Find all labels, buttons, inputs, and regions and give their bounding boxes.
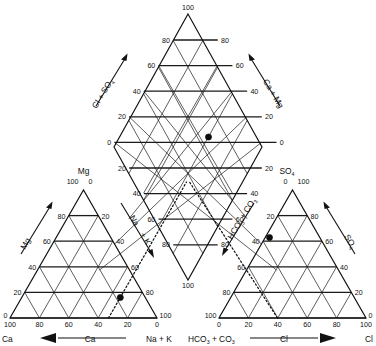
cation-apex-tick-100: 100 [67, 178, 79, 186]
diamond-diag-left-3 [173, 41, 247, 174]
diamond-camg-axis-arrow-head [249, 54, 256, 62]
cation-left-tick-80: 80 [58, 213, 66, 221]
diamond-axis-titles: Cl + SO4 Ca + Mg [90, 54, 286, 111]
anion-gridline-l2 [278, 241, 322, 318]
cation-triangle [10, 182, 187, 318]
diamond-data-point[interactable] [205, 134, 211, 140]
diamond-ur-tick-20: 20 [265, 113, 273, 121]
diamond-ur-tick-80: 80 [221, 37, 229, 45]
diamond-apex-bottom-tick-100: 100 [182, 282, 194, 290]
anion-left-tick-20: 20 [267, 213, 275, 221]
diamond-ur-tick-60: 60 [236, 62, 244, 70]
diamond-diag-right-3 [129, 41, 203, 174]
diamond-ul-tick-0: 0 [107, 139, 111, 147]
cation-bottom-tick-80: 80 [35, 321, 43, 329]
diamond-ur-tick-40: 40 [250, 88, 258, 96]
cation-left-tick-60: 60 [43, 238, 51, 246]
anion-triangle [190, 182, 367, 318]
piper-diagram-svg: 100 0 Mg 80 60 40 20 0 20 40 60 80 100 1… [0, 0, 376, 346]
anion-so4-axis-arrow-head [324, 202, 331, 210]
anion-right-tick-0: 0 [369, 312, 373, 320]
diamond-ll-tick-60: 60 [147, 216, 155, 224]
diamond-apex-top-tick-100: 100 [182, 4, 194, 12]
cation-corner-label-ca: Ca [2, 334, 13, 344]
cation-bottom-tick-60: 60 [65, 321, 73, 329]
anion-left-tick-100: 100 [205, 312, 217, 320]
cation-bottom-tick-20: 20 [124, 321, 132, 329]
cation-gridline-l4 [128, 292, 143, 318]
diamond-gl-a2 [144, 91, 247, 219]
anion-right-tick-20: 20 [355, 289, 363, 297]
diamond-clso4-axis-arrow-head [121, 54, 128, 62]
anion-bottom-axis-title-cl: Cl [280, 334, 288, 344]
anion-gridline-r4 [234, 292, 249, 318]
cation-bottom-tick-0: 0 [155, 321, 159, 329]
piper-diagram-container: 100 0 Mg 80 60 40 20 0 20 40 60 80 100 1… [0, 0, 376, 346]
diamond-ul-tick-60: 60 [147, 62, 155, 70]
cation-right-axis-title-nak-b: + K [138, 230, 153, 246]
cation-bottom-tick-40: 40 [94, 321, 102, 329]
cation-right-axis-title-nak: Na [128, 213, 142, 228]
diamond-left-axis-title-clso4: Cl + SO4 [90, 77, 116, 111]
diamond-ul-tick-20: 20 [118, 113, 126, 121]
diamond-diag-left-1 [144, 94, 218, 227]
anion-corner-label-hco3-co3: HCO3 + CO3 [188, 334, 235, 345]
diamond-ur-tick-0: 0 [280, 139, 284, 147]
anion-right-tick-40: 40 [340, 264, 348, 272]
anion-bottom-tick-40: 40 [274, 321, 282, 329]
cation-right-tick-80: 80 [146, 289, 154, 297]
diamond-lr-tick-60: 60 [236, 216, 244, 224]
diamond-lr-tick-80: 80 [221, 241, 229, 249]
cation-right-tick-60: 60 [131, 264, 139, 272]
cation-left-tick-40: 40 [28, 264, 36, 272]
anion-apex-tick-100: 100 [298, 178, 310, 186]
anion-bottom-tick-100: 100 [360, 321, 372, 329]
anion-bottom-tick-60: 60 [303, 321, 311, 329]
anion-data-point[interactable] [266, 234, 272, 240]
cation-triangle-outline [10, 190, 157, 318]
cation-apex-label-mg: Mg [78, 166, 90, 176]
diamond-plot [100, 14, 277, 280]
cation-mg-axis-arrow-head [46, 202, 53, 210]
cation-nak-axis-arrow-head [148, 249, 155, 258]
anion-right-tick-80: 80 [311, 213, 319, 221]
diamond-ll-tick-80: 80 [162, 241, 170, 249]
cation-corner-label-nak: Na + K [146, 334, 172, 344]
cation-right-tick-40: 40 [116, 238, 124, 246]
anion-cl-axis-arrow-head [320, 333, 336, 343]
diamond-ul-tick-80: 80 [162, 37, 170, 45]
anion-left-tick-40: 40 [252, 238, 260, 246]
anion-left-tick-60: 60 [237, 264, 245, 272]
diamond-grid-main [115, 40, 277, 245]
diamond-lr-tick-40: 40 [250, 190, 258, 198]
cation-gridline-l2 [69, 241, 113, 318]
diamond-gl-b2 [129, 91, 232, 219]
anion-left-tick-80: 80 [223, 289, 231, 297]
cation-bottom-axis-title-ca: Ca [85, 334, 96, 344]
diamond-lr-tick-20: 20 [265, 165, 273, 173]
cation-apex-tick-0: 0 [89, 178, 93, 186]
cation-grid [25, 216, 143, 318]
diamond-right-axis-title-camg: Ca + Mg [261, 77, 286, 110]
anion-bottom-tick-20: 20 [244, 321, 252, 329]
anion-bottom-tick-0: 0 [217, 321, 221, 329]
anion-corner-label-cl: Cl [365, 334, 373, 344]
diamond-ll-tick-20: 20 [118, 165, 126, 173]
cation-left-tick-0: 0 [4, 312, 8, 320]
cation-right-tick-20: 20 [102, 213, 110, 221]
anion-gridline-l4 [337, 292, 352, 318]
diamond-outline [114, 14, 262, 280]
cation-ca-axis-arrow-head [40, 333, 56, 343]
cation-gridline-r4 [25, 292, 40, 318]
anion-bottom-tick-80: 80 [333, 321, 341, 329]
diamond-diag-right-1 [158, 94, 232, 227]
anion-gridline-r2 [263, 241, 307, 318]
diamond-tick-labels: 100 100 80 60 40 20 0 80 60 40 20 0 20 4… [107, 4, 284, 290]
diamond-ll-tick-40: 40 [133, 190, 141, 198]
cation-bottom-tick-100: 100 [4, 321, 16, 329]
diamond-gl-b1 [144, 66, 218, 194]
diamond-ul-tick-40: 40 [133, 88, 141, 96]
cation-nak-axis-arrow-line [121, 203, 152, 254]
anion-right-tick-60: 60 [325, 238, 333, 246]
anion-tick-labels: 0 100 SO4 20 40 60 80 100 80 60 40 20 0 … [205, 166, 373, 329]
